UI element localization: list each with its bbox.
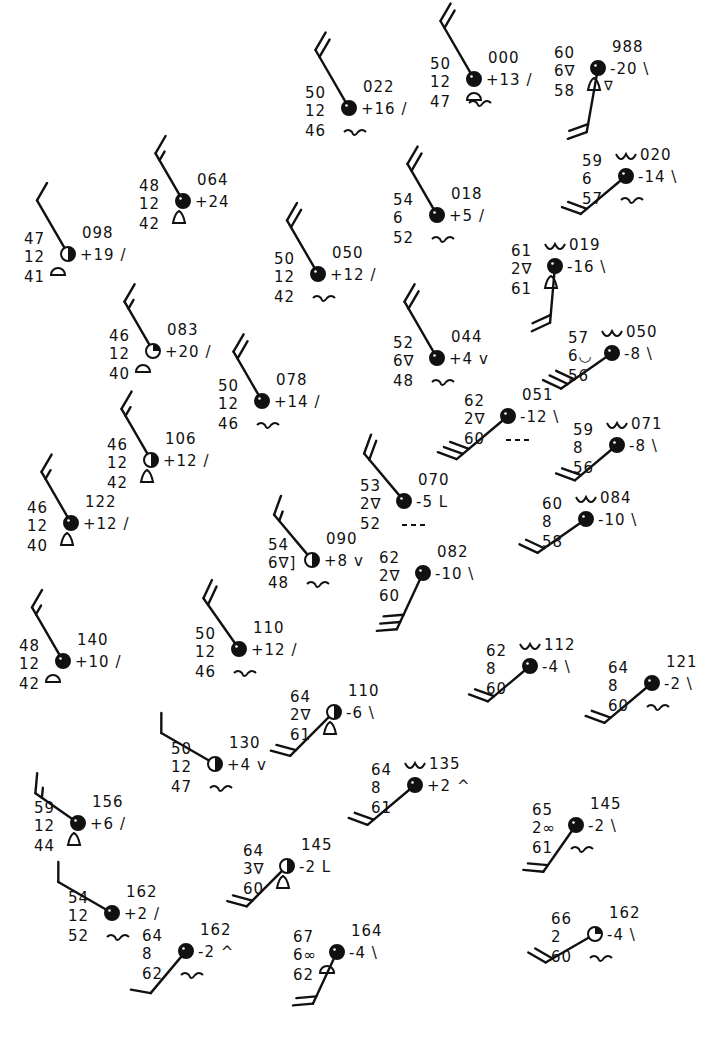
visibility-weather-value: 2∇ xyxy=(464,412,486,427)
cumulus-fair-icon xyxy=(51,268,65,275)
pressure-tendency-value: -8 \ xyxy=(624,347,653,362)
sky-cover-icon xyxy=(330,945,344,959)
wind-shaft-icon xyxy=(550,273,554,323)
dewpoint-value: 61 xyxy=(371,801,392,816)
stratocumulus-cloud-icon xyxy=(432,380,454,385)
pressure-tendency-value: -4 \ xyxy=(349,946,378,961)
wind-barb-icon xyxy=(377,629,397,631)
sky-cover-icon xyxy=(430,208,444,222)
pressure-tendency-value: +20 / xyxy=(165,345,211,360)
wind-barb-icon xyxy=(227,901,246,906)
sky-cover-icon xyxy=(208,757,222,771)
stratocumulus-cloud-icon xyxy=(571,847,593,852)
sky-cover-icon xyxy=(591,61,605,75)
pressure-value: 130 xyxy=(229,736,261,751)
sky-cover-icon xyxy=(397,494,411,508)
visibility-weather-value: 8 xyxy=(486,662,497,677)
wind-barb-icon xyxy=(122,392,132,409)
visibility-weather-value: 8 xyxy=(142,947,153,962)
temperature-value: 52 xyxy=(393,336,414,351)
sky-cover-icon xyxy=(588,927,602,941)
temperature-value: 62 xyxy=(379,551,400,566)
visibility-weather-value: 12 xyxy=(430,75,451,90)
cumulus-cloud-icon xyxy=(324,722,336,734)
wind-barb-icon xyxy=(405,284,415,301)
wind-barb-icon xyxy=(409,291,419,308)
pressure-tendency-value: +2 / xyxy=(124,907,160,922)
pressure-value: 050 xyxy=(626,325,658,340)
dewpoint-value: 48 xyxy=(268,576,289,591)
cirrus-cloud-icon xyxy=(545,244,565,249)
pressure-value: 000 xyxy=(488,51,520,66)
visibility-weather-value: 12 xyxy=(139,197,160,212)
dewpoint-value: 61 xyxy=(532,841,553,856)
temperature-value: 50 xyxy=(218,379,239,394)
stratocumulus-cloud-icon xyxy=(432,237,454,242)
cumulus-fair-icon xyxy=(136,365,150,372)
wind-shaft-icon xyxy=(313,958,334,1003)
pressure-tendency-value: +2 ^ xyxy=(427,779,470,794)
cirrus-cloud-icon xyxy=(607,423,627,428)
wind-barb-icon xyxy=(569,124,588,131)
wind-barb-icon xyxy=(568,132,587,139)
visibility-weather-value: 6∇] xyxy=(268,556,296,571)
stratocumulus-cloud-icon xyxy=(344,130,366,135)
pressure-value: 145 xyxy=(301,838,333,853)
temperature-value: 60 xyxy=(542,497,563,512)
cumulus-cloud-icon xyxy=(61,533,73,545)
dewpoint-value: 46 xyxy=(218,417,239,432)
temperature-value: 62 xyxy=(464,394,485,409)
wind-barb-icon xyxy=(279,512,282,521)
visibility-weather-value: 12 xyxy=(274,270,295,285)
wind-barb-icon xyxy=(380,622,400,624)
sky-cover-icon xyxy=(255,394,269,408)
wind-shaft-icon xyxy=(397,579,420,629)
stratocumulus-cloud-icon xyxy=(257,423,279,428)
wind-barb-icon xyxy=(369,441,376,460)
pressure-value: 121 xyxy=(666,655,698,670)
temperature-value: 48 xyxy=(139,179,160,194)
temperature-value: 67 xyxy=(293,930,314,945)
wind-barb-icon xyxy=(528,863,548,865)
station-model xyxy=(156,136,191,223)
dewpoint-value: 42 xyxy=(274,290,295,305)
wind-barb-icon xyxy=(160,152,165,161)
sky-cover-icon xyxy=(71,816,85,830)
dewpoint-value: 41 xyxy=(24,270,45,285)
wind-barb-icon xyxy=(35,773,37,793)
cirrus-cloud-icon xyxy=(616,154,636,159)
pressure-value: 051 xyxy=(522,388,554,403)
dewpoint-value: 62 xyxy=(142,967,163,982)
pressure-value: 020 xyxy=(640,148,672,163)
visibility-weather-value: 6 xyxy=(582,172,593,187)
dewpoint-value: 42 xyxy=(107,476,128,491)
pressure-tendency-value: -6 \ xyxy=(346,706,375,721)
temperature-value: 50 xyxy=(305,86,326,101)
temperature-value: 66 xyxy=(551,912,572,927)
cirrus-cloud-icon xyxy=(576,497,596,502)
wind-barb-icon xyxy=(444,447,463,454)
pressure-tendency-value: -8 \ xyxy=(629,439,658,454)
sky-cover-icon xyxy=(105,906,119,920)
wind-barb-icon xyxy=(271,751,290,756)
temperature-value: 48 xyxy=(19,639,40,654)
visibility-weather-value: 12 xyxy=(109,347,130,362)
cumulus-cloud-icon xyxy=(277,876,289,888)
sky-cover-icon xyxy=(146,344,160,358)
temperature-value: 59 xyxy=(582,154,603,169)
sky-cover-icon xyxy=(605,346,619,360)
wind-barb-icon xyxy=(364,435,371,454)
pressure-tendency-value: +12 / xyxy=(163,454,209,469)
wind-barb-icon xyxy=(203,580,212,598)
wind-barb-icon xyxy=(125,284,135,301)
visibility-weather-value: 3∇ xyxy=(243,862,265,877)
pressure-value: 019 xyxy=(569,238,601,253)
pressure-tendency-value: +16 / xyxy=(361,102,407,117)
station-model xyxy=(408,147,455,242)
temperature-value: 46 xyxy=(107,438,128,453)
cumulus-fair-icon xyxy=(46,675,60,682)
pressure-value: 090 xyxy=(326,532,358,547)
stratocumulus-cloud-icon xyxy=(107,935,129,940)
temperature-value: 62 xyxy=(486,644,507,659)
stratocumulus-cloud-icon xyxy=(234,671,256,676)
